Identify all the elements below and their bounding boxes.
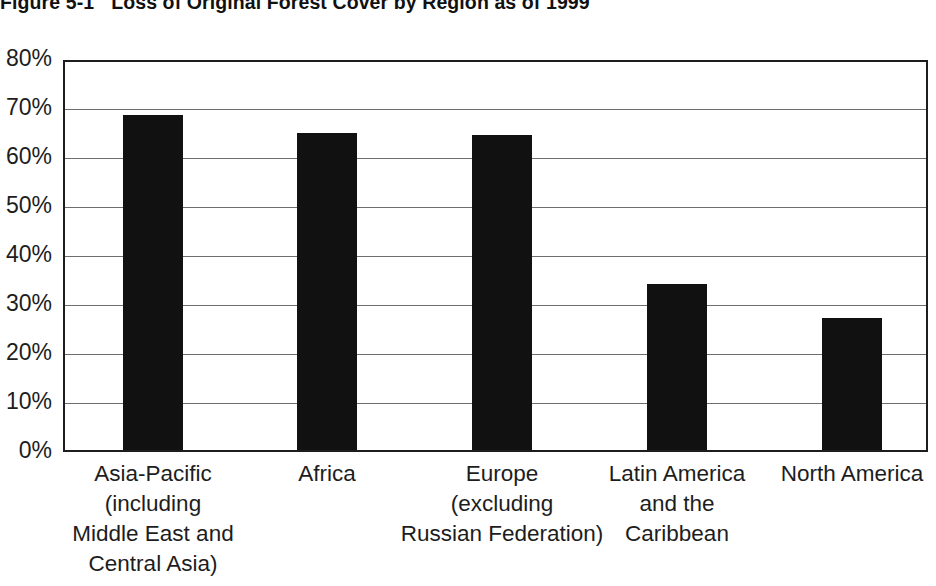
bar (297, 133, 357, 450)
y-axis-tick-label: 50% (0, 192, 52, 219)
gridline (65, 109, 926, 110)
plot-area (63, 60, 928, 452)
x-axis-category-line: and the (562, 489, 792, 519)
x-axis-category-label: North America (737, 459, 936, 489)
y-axis-tick-label: 80% (0, 45, 52, 72)
y-axis-tick-label: 70% (0, 94, 52, 121)
bar (822, 318, 882, 450)
x-axis-category-line: North America (737, 459, 936, 489)
bar (472, 135, 532, 450)
bar (647, 284, 707, 450)
y-axis-tick-label: 10% (0, 388, 52, 415)
x-axis-category-line: Middle East and (38, 519, 268, 549)
x-axis-category-line: Central Asia) (38, 549, 268, 579)
bar-chart: 0%10%20%30%40%50%60%70%80% Asia-Pacific(… (0, 0, 936, 586)
bar (123, 115, 183, 450)
y-axis-tick-label: 20% (0, 339, 52, 366)
y-axis-tick-label: 60% (0, 143, 52, 170)
y-axis-tick-label: 30% (0, 290, 52, 317)
x-axis-category-line: Caribbean (562, 519, 792, 549)
y-axis-tick-label: 40% (0, 241, 52, 268)
x-axis-category-line: (including (38, 489, 268, 519)
